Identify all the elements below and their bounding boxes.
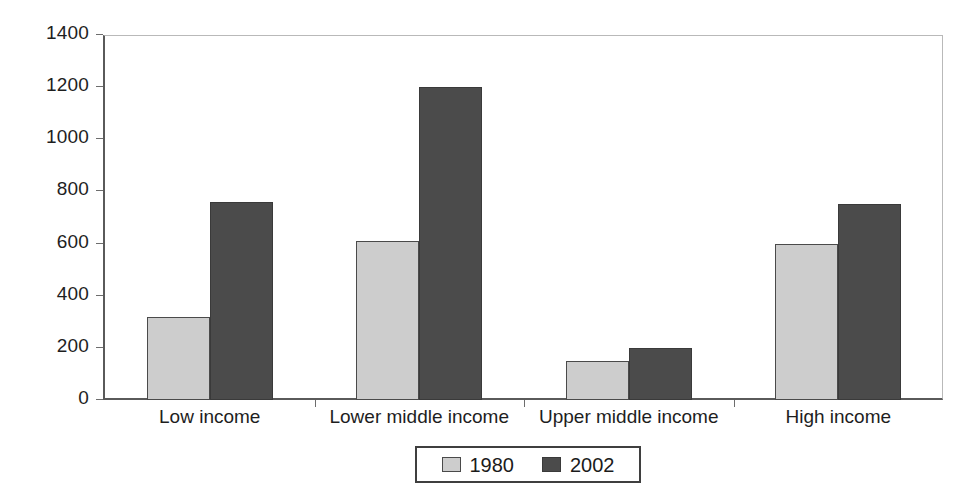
bar-group (775, 35, 901, 400)
chart-legend: 19802002 (415, 446, 641, 483)
legend-item-2002: 2002 (542, 454, 615, 476)
legend-label-1980: 1980 (470, 454, 515, 476)
bar-2002-high-income (838, 204, 901, 400)
y-axis-tick-mark (96, 399, 103, 400)
legend-item-1980: 1980 (442, 454, 515, 476)
y-axis-tick-mark (96, 190, 103, 191)
y-axis-tick-label: 600 (57, 232, 89, 252)
y-axis-tick-label: 1000 (46, 127, 89, 147)
bar-groups (105, 35, 943, 400)
y-axis-tick-mark (96, 243, 103, 244)
x-axis-label-1: Low income (105, 404, 315, 430)
x-axis-category-labels: Low incomeLower middle incomeUpper middl… (105, 404, 943, 434)
bar-chart: 0200400600800100012001400 Low incomeLowe… (0, 0, 979, 500)
y-axis-tick-mark (96, 86, 103, 87)
y-axis-tick-label: 0 (78, 388, 89, 408)
bar-1980-upper-middle-income (566, 361, 629, 400)
y-axis-tick-label: 800 (57, 179, 89, 199)
y-axis-tick-mark (96, 295, 103, 296)
legend-label-2002: 2002 (570, 454, 615, 476)
bar-1980-high-income (775, 244, 838, 400)
y-axis-tick-label: 400 (57, 284, 89, 304)
bar-1980-low-income (147, 317, 210, 400)
bar-group (356, 35, 482, 400)
x-axis-label-2: Lower middle income (315, 404, 525, 430)
y-axis-tick-mark (96, 34, 103, 35)
x-axis-label-4: High income (734, 404, 944, 430)
bar-2002-low-income (210, 202, 273, 400)
y-axis-tick-mark (96, 138, 103, 139)
legend-swatch-2002 (542, 457, 561, 472)
x-axis-label-3: Upper middle income (524, 404, 734, 430)
y-axis-tick-label: 1400 (46, 23, 89, 43)
bar-group (566, 35, 692, 400)
bar-2002-upper-middle-income (629, 348, 692, 400)
legend-swatch-1980 (442, 457, 461, 472)
bar-1980-lower-middle-income (356, 241, 419, 400)
y-axis-tick-label: 1200 (46, 75, 89, 95)
y-axis-tick-mark (96, 347, 103, 348)
y-axis-tick-label: 200 (57, 336, 89, 356)
bar-group (147, 35, 273, 400)
bar-2002-lower-middle-income (419, 87, 482, 400)
